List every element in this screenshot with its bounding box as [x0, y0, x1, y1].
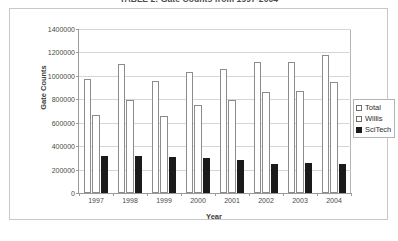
x-tick-label-2001: 2001	[224, 197, 240, 204]
y-tick-label: 1000000	[48, 72, 75, 79]
legend-swatch-icon	[356, 127, 362, 133]
bar-scitech-2002[interactable]	[271, 164, 278, 193]
bar-group	[317, 29, 351, 193]
x-tick-mark	[79, 193, 80, 196]
bar-group	[283, 29, 317, 193]
x-tick-label-1999: 1999	[156, 197, 172, 204]
bar-total-1998[interactable]	[118, 64, 125, 193]
x-tick-label-1997: 1997	[88, 197, 104, 204]
bar-willis-2001[interactable]	[228, 100, 235, 193]
bar-willis-2000[interactable]	[194, 105, 201, 193]
x-tick-label-2004: 2004	[326, 197, 342, 204]
x-tick-mark	[113, 193, 114, 196]
bar-scitech-2000[interactable]	[203, 158, 210, 193]
bar-willis-2003[interactable]	[296, 91, 303, 194]
bar-willis-2004[interactable]	[330, 82, 337, 193]
bar-willis-1999[interactable]	[160, 116, 167, 193]
y-tick-label: 400000	[52, 143, 75, 150]
bar-scitech-1999[interactable]	[169, 157, 176, 193]
bar-total-2003[interactable]	[288, 62, 295, 193]
bar-scitech-2001[interactable]	[237, 160, 244, 193]
bar-willis-2002[interactable]	[262, 92, 269, 193]
chart-title: TABLE 2: Gate Counts from 1997-2004	[0, 0, 398, 4]
x-tick-mark	[317, 193, 318, 196]
legend-label: SciTech	[365, 125, 391, 134]
bar-total-1997[interactable]	[84, 79, 91, 193]
x-tick-mark	[249, 193, 250, 196]
legend-item-total[interactable]: Total	[356, 102, 391, 113]
bar-scitech-1998[interactable]	[135, 156, 142, 193]
x-tick-label-1998: 1998	[122, 197, 138, 204]
bar-willis-1997[interactable]	[92, 115, 99, 193]
bar-group	[147, 29, 181, 193]
bar-group	[181, 29, 215, 193]
y-tick-label: 0	[71, 190, 75, 197]
bar-group	[215, 29, 249, 193]
legend-label: Willis	[365, 114, 383, 123]
bar-scitech-2004[interactable]	[339, 164, 346, 193]
x-tick-mark	[147, 193, 148, 196]
bar-group	[113, 29, 147, 193]
bar-scitech-1997[interactable]	[101, 156, 108, 193]
bar-group	[79, 29, 113, 193]
x-tick-mark	[351, 193, 352, 196]
x-tick-mark	[181, 193, 182, 196]
bar-scitech-2003[interactable]	[305, 163, 312, 193]
x-tick-label-2000: 2000	[190, 197, 206, 204]
legend-item-scitech[interactable]: SciTech	[356, 124, 391, 135]
bar-willis-1998[interactable]	[126, 100, 133, 193]
y-tick-label: 600000	[52, 119, 75, 126]
y-tick-label: 200000	[52, 166, 75, 173]
bar-group	[249, 29, 283, 193]
x-tick-mark	[283, 193, 284, 196]
chart-frame: Gate Counts 0200000400000600000800000100…	[9, 8, 388, 220]
y-tick-label: 800000	[52, 96, 75, 103]
x-tick-mark	[215, 193, 216, 196]
legend-swatch-icon	[356, 105, 362, 111]
y-tick-label: 1200000	[48, 49, 75, 56]
bar-total-2004[interactable]	[322, 55, 329, 193]
legend-item-willis[interactable]: Willis	[356, 113, 391, 124]
legend-swatch-icon	[356, 116, 362, 122]
y-tick-label: 1400000	[48, 26, 75, 33]
bar-total-2002[interactable]	[254, 62, 261, 193]
bar-total-1999[interactable]	[152, 81, 159, 193]
chart-legend: TotalWillisSciTech	[353, 99, 395, 138]
legend-label: Total	[365, 103, 381, 112]
bar-total-2000[interactable]	[186, 72, 193, 193]
x-tick-label-2002: 2002	[258, 197, 274, 204]
x-axis-title: Year	[78, 212, 350, 221]
y-axis-title: Gate Counts	[39, 53, 48, 123]
bar-total-2001[interactable]	[220, 69, 227, 193]
x-tick-label-2003: 2003	[292, 197, 308, 204]
plot-area: 0200000400000600000800000100000012000001…	[78, 29, 351, 194]
